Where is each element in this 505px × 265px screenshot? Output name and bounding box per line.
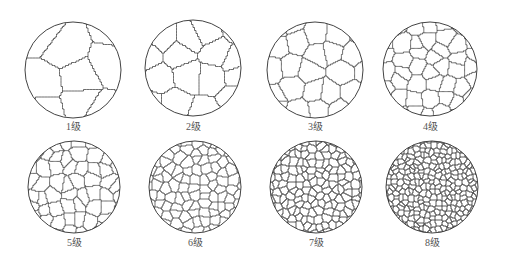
field-of-view-circle bbox=[28, 141, 120, 233]
grade-2-label: 2级 bbox=[173, 121, 213, 133]
grade-7-micrograph bbox=[270, 141, 362, 233]
grade-5-micrograph bbox=[28, 141, 120, 233]
field-of-view-circle bbox=[383, 22, 477, 116]
grade-4-micrograph bbox=[383, 22, 477, 116]
grade-6-micrograph bbox=[149, 141, 241, 233]
grade-6-label: 6级 bbox=[175, 237, 215, 249]
grade-2-micrograph bbox=[145, 20, 241, 116]
grade-8-micrograph bbox=[386, 141, 478, 233]
grade-8-label: 8级 bbox=[412, 237, 452, 249]
grade-5-label: 5级 bbox=[54, 237, 94, 249]
grade-4-label: 4级 bbox=[410, 121, 450, 133]
grade-1-micrograph bbox=[25, 22, 121, 118]
grade-7-label: 7级 bbox=[296, 237, 336, 249]
field-of-view-circle bbox=[25, 22, 121, 118]
grain-size-chart: 1级 2级 3级 4级 5级 6级 7级 8级 bbox=[0, 0, 505, 265]
grade-3-micrograph bbox=[267, 22, 363, 118]
grade-3-label: 3级 bbox=[295, 121, 335, 133]
grade-1-label: 1级 bbox=[53, 121, 93, 133]
